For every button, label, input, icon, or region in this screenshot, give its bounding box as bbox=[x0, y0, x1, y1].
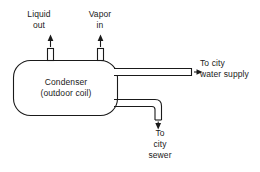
vapor-in-arrow-head-icon bbox=[98, 35, 104, 42]
water-supply-label-line2: water supply bbox=[200, 69, 249, 80]
liquid-out-nozzle bbox=[48, 49, 54, 61]
vapor-in-label-line1: Vapor bbox=[89, 9, 112, 20]
sewer-pipe-inner-wall bbox=[114, 107, 155, 121]
condenser-label-line2: (outdoor coil) bbox=[40, 88, 91, 99]
water-supply-label: To city water supply bbox=[200, 58, 249, 80]
liquid-out-arrow-head-icon bbox=[48, 35, 54, 42]
sewer-pipe-outer-wall bbox=[114, 100, 162, 121]
vapor-in-label-line2: in bbox=[89, 20, 112, 31]
vapor-in-nozzle bbox=[98, 49, 104, 61]
vapor-in-label: Vapor in bbox=[89, 9, 112, 31]
sewer-label: To city sewer bbox=[148, 128, 171, 161]
sewer-label-line2: city bbox=[148, 139, 171, 150]
water-supply-label-line1: To city bbox=[200, 58, 249, 69]
condenser-label: Condenser (outdoor coil) bbox=[40, 77, 91, 99]
water-supply-pipe bbox=[114, 69, 192, 76]
sewer-label-line1: To bbox=[148, 128, 171, 139]
condenser-label-line1: Condenser bbox=[40, 77, 91, 88]
sewer-label-line3: sewer bbox=[148, 150, 171, 161]
condenser-diagram: Liquid out Vapor in Condenser (outdoor c… bbox=[0, 0, 260, 172]
liquid-out-label-line2: out bbox=[27, 20, 50, 31]
liquid-out-label: Liquid out bbox=[27, 9, 50, 31]
liquid-out-label-line1: Liquid bbox=[27, 9, 50, 20]
